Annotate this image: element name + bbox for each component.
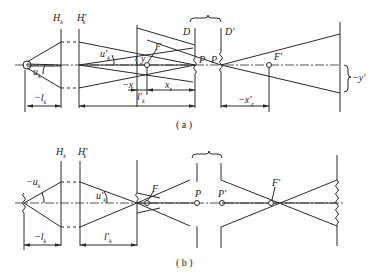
caption-b: ( b )	[176, 257, 193, 269]
label-F-prime-a: F'	[273, 51, 283, 62]
panel-a: Hk H'k uk u'k y F D D' P P F' −y' −lk −x…	[15, 12, 366, 131]
label-u-k-a: uk	[33, 66, 41, 79]
panel-b: Hk H'k −uk u'k F P P' F' −lk l'k ( b )	[15, 146, 345, 269]
leader-F-prime-b	[272, 187, 275, 200]
label-minus-l-k-b: −lk	[34, 231, 47, 244]
ray-b-cross-down	[137, 203, 190, 226]
ray-a-obj-top	[27, 42, 61, 62]
ray-b-lens-bottom	[137, 208, 160, 213]
label-minus-x-a: −x	[122, 79, 134, 90]
label-u-k-prime-a: u'k	[100, 48, 110, 61]
label-H-k-prime-b: H'k	[77, 146, 88, 159]
label-H-k-a: Hk	[52, 12, 63, 25]
label-minus-x-z-prime-a: −x'z	[238, 94, 254, 107]
label-l-k-prime-b: l'k	[104, 231, 112, 244]
brace-D-D-prime-b	[192, 151, 222, 158]
ray-b-cross-up	[137, 180, 190, 203]
label-P-a: P	[198, 54, 205, 65]
label-minus-l-k-a: −lk	[34, 92, 47, 105]
point-P-b	[195, 201, 200, 206]
label-minus-u-k-b: −uk	[26, 176, 41, 189]
caption-a: ( a )	[176, 119, 192, 131]
label-minus-y-prime: −y'	[352, 72, 366, 83]
focal-point-F-prime-a	[267, 63, 272, 68]
ray-b-obj-bottom	[24, 203, 61, 227]
label-D-prime: D'	[224, 26, 235, 37]
angle-arc-minus-u-k	[42, 193, 44, 203]
stop-D	[194, 28, 197, 108]
label-P-prime-b: P'	[217, 188, 227, 199]
label-P-prime-a: P	[210, 54, 217, 65]
label-H-k-b: Hk	[55, 146, 66, 159]
label-F-b: F	[151, 183, 159, 194]
ray-b-img-bottom	[80, 203, 137, 227]
brace-D-D-prime	[190, 15, 221, 22]
ray-a-cross-down	[79, 65, 193, 82]
screen-surface-b	[336, 155, 339, 246]
label-F-prime-b: F'	[271, 177, 281, 188]
label-D: D	[182, 26, 191, 37]
focal-point-F-prime-b	[269, 201, 274, 206]
label-y-a: y	[140, 53, 146, 64]
label-P-b: P	[194, 188, 201, 199]
ray-b-img-top	[80, 182, 137, 203]
label-l-k-prime-a: l'k	[137, 91, 145, 104]
label-H-k-prime-a: H'k	[76, 12, 87, 25]
stop-D-prime	[220, 28, 223, 108]
brace-y-prime	[344, 65, 351, 92]
label-F-a: F	[154, 41, 162, 52]
ray-a-out-bottom	[221, 65, 340, 93]
optical-diagram: Hk H'k uk u'k y F D D' P P F' −y' −lk −x…	[0, 0, 379, 275]
